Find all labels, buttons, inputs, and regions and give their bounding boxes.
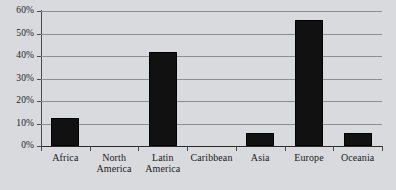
bar-oceania[interactable] [344, 133, 372, 147]
y-axis-tick-label: 50% [0, 29, 34, 39]
bar-slot [187, 11, 236, 146]
category-label-asia: Asia [236, 152, 285, 174]
x-axis-tick-mark [382, 146, 383, 151]
category-label-line: Africa [41, 152, 90, 163]
category-label-latin-america: LatinAmerica [138, 152, 187, 174]
x-axis-ticks [41, 146, 382, 151]
bar-europe[interactable] [295, 20, 323, 146]
category-label-oceania: Oceania [333, 152, 382, 174]
bar-slot [285, 11, 334, 146]
bars-layer [41, 11, 382, 146]
x-axis-tick-mark [187, 146, 188, 151]
category-label-line: Latin [138, 152, 187, 163]
category-label-line: Caribbean [187, 152, 236, 163]
category-label-caribbean: Caribbean [187, 152, 236, 174]
category-label-line: Europe [285, 152, 334, 163]
bar-slot [236, 11, 285, 146]
category-label-line: Oceania [333, 152, 382, 163]
y-axis-tick-label: 60% [0, 6, 34, 16]
x-axis-tick-mark [285, 146, 286, 151]
x-axis-tick-mark [333, 146, 334, 151]
y-axis-tick-label: 20% [0, 96, 34, 106]
bar-slot [41, 11, 90, 146]
x-axis-category-labels: AfricaNorthAmericaLatinAmericaCaribbeanA… [41, 152, 382, 174]
y-axis-tick-label: 10% [0, 119, 34, 129]
category-label-line: Asia [236, 152, 285, 163]
x-axis-tick-mark [90, 146, 91, 151]
bar-latin-america[interactable] [149, 52, 177, 147]
bar-chart: 60%50%40%30%20%10%0% AfricaNorthAmericaL… [0, 0, 396, 190]
y-axis-tick-label: 30% [0, 74, 34, 84]
category-label-line: North [90, 152, 139, 163]
y-axis-tick-label: 40% [0, 51, 34, 61]
category-label-line: America [90, 163, 139, 174]
category-label-europe: Europe [285, 152, 334, 174]
bar-africa[interactable] [51, 118, 79, 146]
x-axis-tick-mark [138, 146, 139, 151]
bar-slot [90, 11, 139, 146]
x-axis-tick-mark [41, 146, 42, 151]
category-label-line: America [138, 163, 187, 174]
y-axis-tick-label: 0% [0, 141, 34, 151]
category-label-africa: Africa [41, 152, 90, 174]
category-label-north-america: NorthAmerica [90, 152, 139, 174]
x-axis-tick-mark [236, 146, 237, 151]
bar-slot [333, 11, 382, 146]
plot-area [41, 11, 382, 146]
bar-asia[interactable] [246, 133, 274, 147]
bar-slot [138, 11, 187, 146]
